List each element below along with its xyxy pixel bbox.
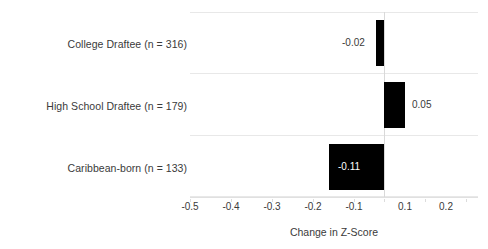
x-tick-label-0: -0.5 xyxy=(170,201,210,212)
bar-value-caribbean-born: -0.11 xyxy=(338,161,360,172)
category-label-2: Caribbean-born (n = 133) xyxy=(0,162,187,174)
x-tick-label-4: -0.1 xyxy=(334,201,374,212)
bar-value-college-draftee: -0.02 xyxy=(342,37,365,48)
gridline-1 xyxy=(190,73,478,74)
bar-value-high-school-draftee: 0.05 xyxy=(412,99,431,110)
x-tick-label-3: -0.2 xyxy=(293,201,333,212)
gridline-top xyxy=(190,12,478,13)
x-tick-label-6: 0.2 xyxy=(426,201,466,212)
category-label-1: High School Draftee (n = 179) xyxy=(0,100,187,112)
gridline-2 xyxy=(190,135,478,136)
plot-area: -0.02 0.05 -0.11 xyxy=(190,12,478,197)
x-tick-label-1: -0.4 xyxy=(211,201,251,212)
bar-high-school-draftee xyxy=(384,82,405,128)
bar-chart: College Draftee (n = 316) High School Dr… xyxy=(0,0,488,249)
category-label-0: College Draftee (n = 316) xyxy=(0,38,187,50)
x-tick-mark-6 xyxy=(466,199,467,202)
x-axis-line xyxy=(190,197,478,198)
x-tick-label-5: 0.1 xyxy=(385,201,425,212)
x-tick-label-2: -0.3 xyxy=(252,201,292,212)
bar-college-draftee xyxy=(376,20,384,66)
x-axis-title: Change in Z-Score xyxy=(190,226,478,238)
